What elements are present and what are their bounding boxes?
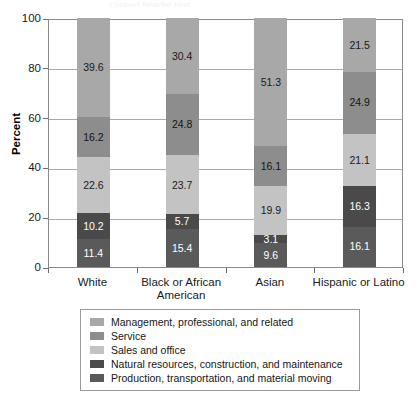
bar-segment-value: 16.3 bbox=[349, 201, 369, 212]
plot-area: 39.616.222.610.211.430.424.823.75.715.45… bbox=[48, 19, 403, 268]
bar-white[interactable]: 39.616.222.610.211.4 bbox=[77, 18, 110, 267]
bar-segment-value: 11.4 bbox=[84, 248, 104, 259]
bar-segment[interactable]: 9.6 bbox=[254, 243, 287, 267]
x-axis-tick bbox=[314, 268, 315, 273]
legend-item-label: Sales and office bbox=[111, 345, 186, 356]
bar-segment[interactable]: 30.4 bbox=[166, 18, 199, 94]
legend-item-label: Service bbox=[111, 331, 146, 342]
legend-item[interactable]: Service bbox=[81, 329, 359, 343]
bar-segment[interactable]: 24.8 bbox=[166, 94, 199, 156]
bar-segment[interactable]: 19.9 bbox=[254, 186, 287, 236]
bar-segment-value: 22.6 bbox=[83, 180, 103, 191]
y-axis-tick-label: 40 bbox=[1, 162, 41, 174]
x-axis-tick bbox=[48, 268, 49, 273]
legend-swatch-icon bbox=[90, 332, 104, 340]
bar-segment[interactable]: 16.2 bbox=[77, 117, 110, 157]
legend-item-label: Natural resources, construction, and mai… bbox=[111, 359, 343, 370]
bar-segment-value: 3.1 bbox=[264, 235, 279, 243]
y-axis-tick-label: 20 bbox=[1, 212, 41, 224]
bar-segment-value: 16.2 bbox=[83, 132, 103, 143]
bar-segment-value: 19.9 bbox=[261, 205, 281, 216]
legend-swatch-icon bbox=[90, 346, 104, 354]
bar-segment-value: 16.1 bbox=[349, 241, 369, 252]
x-axis-category: Hispanic or Latino bbox=[304, 276, 414, 289]
bar-asian[interactable]: 51.316.119.93.19.6 bbox=[254, 18, 287, 267]
x-axis-category-label: Hispanic or Latino bbox=[304, 276, 414, 289]
bar-segment[interactable]: 51.3 bbox=[254, 18, 287, 146]
stacked-bar-chart: Percent 020406080100 WhiteBlack or Afric… bbox=[0, 0, 420, 300]
legend-item-label: Production, transportation, and material… bbox=[111, 373, 332, 384]
bar-segment[interactable]: 5.7 bbox=[166, 214, 199, 228]
legend-item[interactable]: Natural resources, construction, and mai… bbox=[81, 357, 359, 371]
bar-segment-value: 23.7 bbox=[172, 180, 192, 191]
y-axis-tick-label: 80 bbox=[1, 63, 41, 75]
bar-segment[interactable]: 39.6 bbox=[77, 18, 110, 117]
bar-segment-value: 16.1 bbox=[261, 161, 281, 172]
legend-item[interactable]: Production, transportation, and material… bbox=[81, 371, 359, 385]
bar-black[interactable]: 30.424.823.75.715.4 bbox=[166, 18, 199, 267]
bar-segment[interactable]: 23.7 bbox=[166, 155, 199, 214]
bar-segment[interactable]: 21.1 bbox=[343, 134, 376, 187]
bar-segment[interactable]: 24.9 bbox=[343, 72, 376, 134]
bar-segment[interactable]: 11.4 bbox=[77, 239, 110, 267]
chart-legend: Management, professional, and relatedSer… bbox=[80, 309, 360, 391]
bar-segment-value: 30.4 bbox=[172, 51, 192, 62]
y-axis-title: Percent bbox=[10, 74, 22, 194]
bar-segment-value: 21.1 bbox=[349, 155, 369, 166]
bar-segment-value: 51.3 bbox=[261, 77, 281, 88]
bar-segment-value: 10.2 bbox=[83, 221, 103, 232]
legend-swatch-icon bbox=[90, 318, 104, 326]
bar-segment-value: 5.7 bbox=[175, 216, 190, 227]
bar-segment[interactable]: 22.6 bbox=[77, 157, 110, 213]
bar-segment-value: 24.9 bbox=[349, 97, 369, 108]
bar-segment[interactable]: 10.2 bbox=[77, 213, 110, 238]
legend-item-label: Management, professional, and related bbox=[111, 317, 293, 328]
bar-segment[interactable]: 16.1 bbox=[343, 227, 376, 267]
x-axis-category-label-line2: American bbox=[126, 289, 236, 302]
legend-swatch-icon bbox=[90, 374, 104, 382]
bar-segment-value: 24.8 bbox=[172, 119, 192, 130]
legend-swatch-icon bbox=[90, 360, 104, 368]
x-axis-tick bbox=[226, 268, 227, 273]
bar-segment[interactable]: 16.3 bbox=[343, 186, 376, 227]
x-axis-tick bbox=[137, 268, 138, 273]
legend-item[interactable]: Sales and office bbox=[81, 343, 359, 357]
y-axis-tick-label: 100 bbox=[1, 13, 41, 25]
bar-segment-value: 15.4 bbox=[172, 243, 192, 254]
bar-hispanic[interactable]: 21.524.921.116.316.1 bbox=[343, 18, 376, 267]
x-axis-tick bbox=[403, 268, 404, 273]
y-axis-tick-label: 60 bbox=[1, 113, 41, 125]
bar-segment[interactable]: 15.4 bbox=[166, 229, 199, 267]
bar-segment-value: 39.6 bbox=[83, 62, 103, 73]
bar-segment-value: 9.6 bbox=[264, 250, 279, 261]
bar-segment-value: 21.5 bbox=[349, 40, 369, 51]
bar-segment[interactable]: 21.5 bbox=[343, 18, 376, 72]
y-axis-tick-label: 0 bbox=[1, 262, 41, 274]
legend-item[interactable]: Management, professional, and related bbox=[81, 315, 359, 329]
bar-segment[interactable]: 16.1 bbox=[254, 146, 287, 186]
bar-segment[interactable]: 3.1 bbox=[254, 235, 287, 243]
